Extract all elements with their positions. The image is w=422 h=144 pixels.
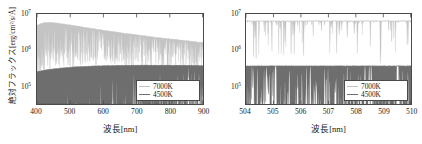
x-tick-label: 508 <box>342 108 370 116</box>
x-tick-label: 600 <box>89 108 117 116</box>
legend-item-4500k: 4500K <box>139 91 196 99</box>
series-7000k <box>246 21 411 64</box>
x-tick-label: 505 <box>259 108 287 116</box>
x-tick-label: 509 <box>370 108 398 116</box>
x-tick-label: 400 <box>22 108 50 116</box>
legend-label-4500k: 4500K <box>153 91 173 98</box>
panel-zoomed: 107 106 105 <box>208 0 416 144</box>
legend-left: 7000K 4500K <box>136 80 200 101</box>
x-tick-label: 506 <box>287 108 315 116</box>
legend-label-4500k: 4500K <box>361 91 381 98</box>
x-tick-label: 500 <box>56 108 84 116</box>
x-tick-label: 510 <box>398 108 422 116</box>
y-tick-label: 106 <box>12 46 31 53</box>
legend-right: 7000K 4500K <box>344 80 408 101</box>
legend-swatch-7000k <box>139 86 150 87</box>
legend-swatch-4500k <box>139 94 150 95</box>
legend-item-4500k: 4500K <box>347 91 404 99</box>
legend-swatch-7000k <box>347 86 358 87</box>
x-tick-label: 504 <box>231 108 259 116</box>
y-tick-label: 106 <box>222 46 241 53</box>
y-tick-label: 105 <box>222 83 241 90</box>
x-axis-label-left: 波長[nm] <box>36 125 204 134</box>
y-tick-label: 107 <box>222 10 241 17</box>
x-axis-label-right: 波長[nm] <box>245 125 412 134</box>
legend-swatch-4500k <box>347 94 358 95</box>
x-tick-label: 700 <box>123 108 151 116</box>
panel-full-range: 絶対フラックス[erg/cm²/s/Å] 107 106 105 <box>0 0 208 144</box>
x-tick-label: 800 <box>156 108 184 116</box>
y-tick-label: 107 <box>12 10 31 17</box>
x-tick-label: 507 <box>314 108 342 116</box>
y-tick-label: 105 <box>12 83 31 90</box>
